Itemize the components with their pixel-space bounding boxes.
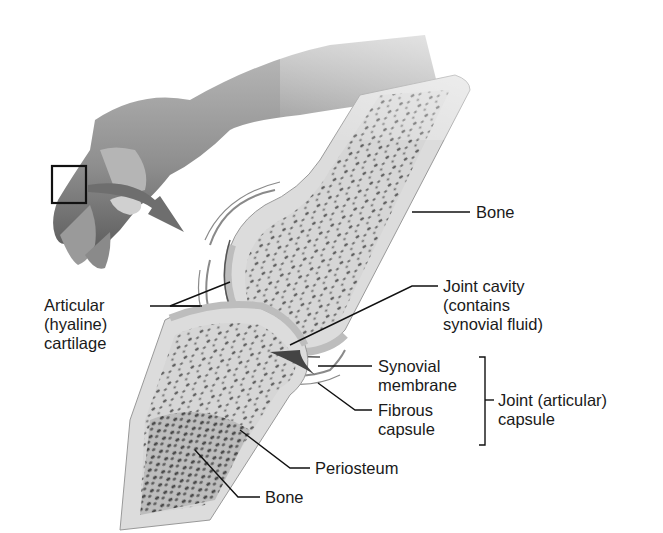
label-joint-capsule: Joint (articular) capsule: [498, 391, 607, 429]
label-text: Articular: [44, 296, 107, 315]
label-text: capsule: [378, 420, 435, 439]
label-text: Periosteum: [315, 459, 398, 478]
label-bone-lower: Bone: [265, 488, 304, 507]
label-text: Synovial: [378, 357, 457, 376]
label-articular-cartilage: Articular (hyaline) cartilage: [44, 296, 107, 353]
label-bone-upper: Bone: [476, 203, 515, 222]
label-text: Bone: [265, 488, 304, 507]
label-text: membrane: [378, 376, 457, 395]
label-text: Bone: [476, 203, 515, 222]
label-synovial-membrane: Synovial membrane: [378, 357, 457, 395]
label-fibrous-capsule: Fibrous capsule: [378, 401, 435, 439]
label-text: Joint (articular): [498, 391, 607, 410]
label-text: Joint cavity: [443, 277, 543, 296]
label-text: (hyaline): [44, 315, 107, 334]
label-text: capsule: [498, 410, 607, 429]
label-text: synovial fluid): [443, 315, 543, 334]
label-periosteum: Periosteum: [315, 459, 398, 478]
label-text: (contains: [443, 296, 543, 315]
label-text: cartilage: [44, 334, 107, 353]
label-joint-cavity: Joint cavity (contains synovial fluid): [443, 277, 543, 334]
label-text: Fibrous: [378, 401, 435, 420]
